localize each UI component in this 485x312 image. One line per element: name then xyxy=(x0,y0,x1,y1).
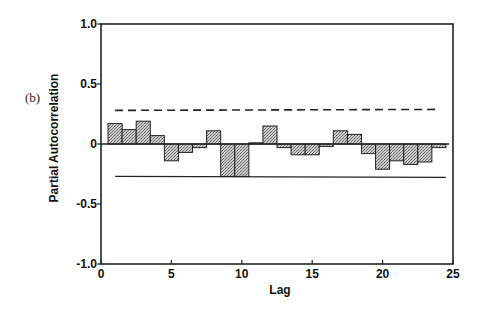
y-tick-label: -1.0 xyxy=(76,257,97,271)
bar-lag-21 xyxy=(390,144,404,161)
bar-lag-22 xyxy=(404,144,418,164)
x-tick-label: 0 xyxy=(98,267,105,281)
bar-lag-23 xyxy=(418,144,432,162)
bar-lag-20 xyxy=(376,144,390,169)
y-tick-label: 0.5 xyxy=(80,77,97,91)
y-tick-label: 1.0 xyxy=(80,17,97,31)
bar-lag-3 xyxy=(136,121,150,144)
lower-confidence-line xyxy=(115,176,446,177)
bar-lag-12 xyxy=(263,126,277,144)
pacf-chart: 1.00.50-0.5-1.00510152025 xyxy=(0,0,485,312)
x-tick-label: 10 xyxy=(235,267,249,281)
bar-lag-19 xyxy=(361,144,375,154)
x-tick-label: 15 xyxy=(306,267,320,281)
x-tick-label: 5 xyxy=(168,267,175,281)
bar-lag-14 xyxy=(291,144,305,155)
y-tick-label: -0.5 xyxy=(76,197,97,211)
bar-lag-1 xyxy=(108,124,122,144)
bar-lag-18 xyxy=(347,134,361,144)
bar-lag-8 xyxy=(207,131,221,144)
bar-lag-10 xyxy=(235,144,249,176)
bar-lag-2 xyxy=(122,130,136,144)
y-tick-label: 0 xyxy=(90,137,97,151)
bar-lag-6 xyxy=(178,144,192,152)
bar-lag-17 xyxy=(333,131,347,144)
bar-series xyxy=(108,121,446,176)
bar-lag-5 xyxy=(164,144,178,161)
x-tick-label: 20 xyxy=(376,267,390,281)
bar-lag-4 xyxy=(150,136,164,144)
x-tick-label: 25 xyxy=(446,267,460,281)
bar-lag-9 xyxy=(221,144,235,176)
bar-lag-15 xyxy=(305,144,319,155)
upper-confidence-line xyxy=(115,109,439,110)
